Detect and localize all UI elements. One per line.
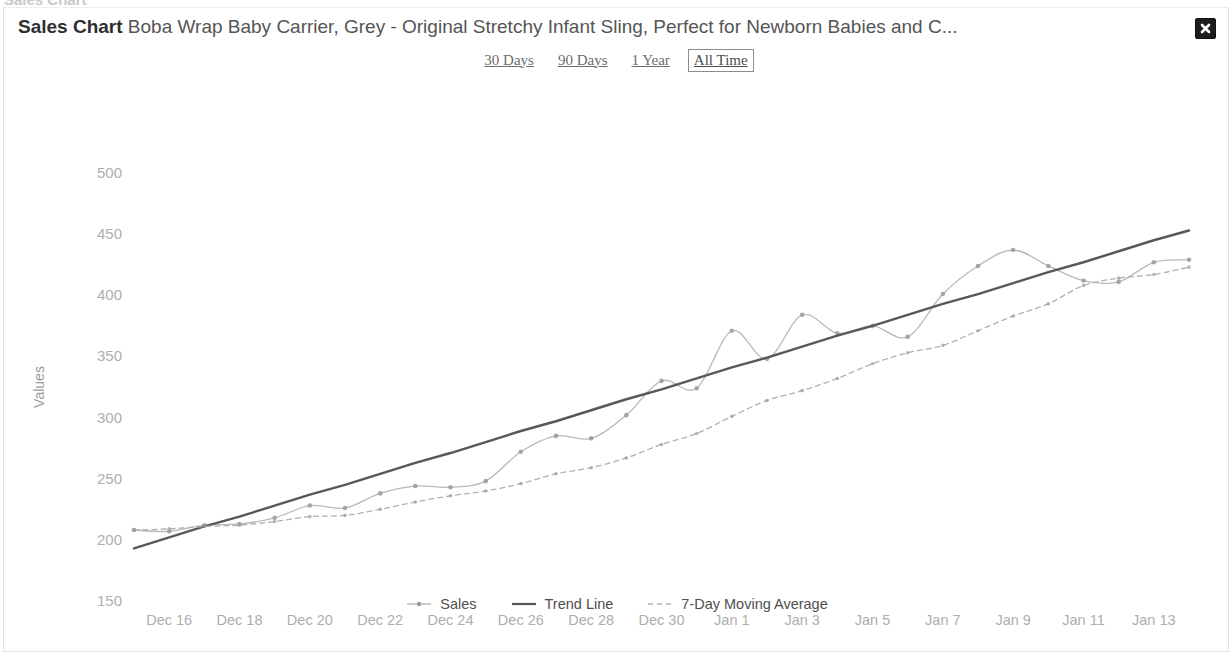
data-point-marker [484, 489, 488, 493]
data-point-marker [1011, 248, 1016, 253]
data-point-marker [343, 506, 348, 511]
sales-line-icon [406, 599, 432, 609]
moving-average-line-icon [647, 599, 673, 609]
data-point-marker [519, 482, 523, 486]
data-point-marker [625, 456, 629, 460]
x-axis-tick-label: Dec 30 [639, 612, 685, 628]
sales-chart-modal: Sales Chart Boba Wrap Baby Carrier, Grey… [3, 7, 1229, 652]
page-title-product: Boba Wrap Baby Carrier, Grey - Original … [123, 16, 958, 37]
chart-canvas: 150200250300350400450500ValuesDec 16Dec … [4, 73, 1230, 633]
data-point-marker [343, 514, 347, 518]
trend-line-icon [511, 599, 537, 609]
legend-item-moving-average: 7-Day Moving Average [647, 596, 827, 612]
x-axis-tick-label: Dec 24 [428, 612, 474, 628]
x-axis-tick-label: Jan 7 [925, 612, 960, 628]
x-axis-tick-label: Jan 11 [1062, 612, 1104, 628]
data-point-marker [624, 413, 629, 418]
data-point-marker [589, 436, 594, 441]
data-point-marker [1046, 264, 1051, 269]
close-icon [1199, 22, 1212, 35]
data-point-marker [976, 329, 980, 333]
x-axis-tick-label: Dec 16 [146, 612, 192, 628]
data-point-marker [308, 515, 312, 519]
legend-item-sales: Sales [406, 596, 476, 612]
x-axis-tick-label: Dec 26 [498, 612, 544, 628]
data-point-marker [730, 415, 734, 419]
data-point-marker [1187, 265, 1191, 269]
x-axis-tick-label: Jan 13 [1132, 612, 1176, 628]
x-axis-tick-label: Dec 18 [217, 612, 263, 628]
series-line [134, 250, 1189, 531]
x-axis-tick-label: Jan 3 [784, 612, 819, 628]
y-axis-tick-label: 400 [97, 286, 122, 303]
x-axis-tick-label: Jan 9 [995, 612, 1030, 628]
data-point-marker [167, 527, 171, 531]
data-point-marker [976, 264, 981, 269]
data-point-marker [554, 434, 559, 439]
data-point-marker [1081, 278, 1086, 283]
y-axis-tick-label: 250 [97, 470, 122, 487]
y-axis-tick-label: 500 [97, 164, 122, 181]
data-point-marker [272, 516, 277, 521]
data-point-marker [1152, 273, 1156, 277]
data-point-marker [836, 377, 840, 381]
data-point-marker [1187, 258, 1192, 263]
chart-legend: Sales Trend Line 7-Day Moving Average [4, 596, 1230, 612]
data-point-marker [800, 313, 805, 318]
sales-chart-plot: 150200250300350400450500ValuesDec 16Dec … [4, 73, 1230, 633]
data-point-marker [378, 507, 382, 511]
data-point-marker [238, 523, 242, 527]
y-axis-tick-label: 450 [97, 225, 122, 242]
y-axis-tick-label: 200 [97, 531, 122, 548]
data-point-marker [941, 292, 946, 297]
tab-all-time[interactable]: All Time [688, 49, 754, 72]
x-axis-tick-label: Dec 22 [357, 612, 403, 628]
tab-1-year[interactable]: 1 Year [626, 49, 676, 72]
data-point-marker [132, 528, 136, 532]
data-point-marker [378, 491, 383, 496]
data-point-marker [871, 362, 875, 366]
range-tabs: 30 Days 90 Days 1 Year All Time [4, 47, 1228, 73]
data-point-marker [448, 485, 453, 490]
series-trend-line [134, 230, 1189, 548]
data-point-marker [413, 484, 418, 489]
data-point-marker [1152, 260, 1157, 265]
series-line [134, 267, 1189, 530]
y-axis-tick-label: 300 [97, 409, 122, 426]
x-axis-tick-label: Dec 20 [287, 612, 333, 628]
tab-90-days[interactable]: 90 Days [552, 49, 614, 72]
x-axis-tick-label: Jan 5 [855, 612, 890, 628]
series-7-day-moving-average [132, 265, 1191, 532]
x-axis-tick-label: Dec 28 [568, 612, 614, 628]
tab-30-days[interactable]: 30 Days [478, 49, 540, 72]
data-point-marker [1116, 280, 1121, 285]
data-point-marker [449, 494, 453, 498]
data-point-marker [554, 472, 558, 476]
close-button[interactable] [1195, 18, 1216, 39]
data-point-marker [1117, 276, 1121, 280]
data-point-marker [1011, 314, 1015, 318]
data-point-marker [800, 389, 804, 393]
data-point-marker [483, 479, 488, 484]
data-point-marker [308, 503, 313, 508]
data-point-marker [694, 386, 699, 391]
legend-label-trend-line: Trend Line [545, 596, 614, 612]
data-point-marker [659, 379, 664, 384]
data-point-marker [941, 344, 945, 348]
legend-label-sales: Sales [440, 596, 476, 612]
page-title-prefix: Sales Chart [18, 16, 123, 37]
data-point-marker [765, 399, 769, 403]
x-axis-tick-label: Jan 1 [714, 612, 749, 628]
data-point-marker [273, 520, 277, 524]
data-point-marker [414, 500, 418, 504]
y-axis-title: Values [31, 366, 47, 408]
data-point-marker [519, 450, 524, 455]
data-point-marker [589, 466, 593, 470]
series-line [134, 230, 1189, 548]
legend-label-moving-average: 7-Day Moving Average [681, 596, 827, 612]
modal-header: Sales Chart Boba Wrap Baby Carrier, Grey… [4, 8, 1228, 46]
legend-item-trend-line: Trend Line [511, 596, 614, 612]
data-point-marker [1047, 302, 1051, 306]
data-point-marker [1082, 284, 1086, 288]
y-axis-tick-label: 350 [97, 347, 122, 364]
